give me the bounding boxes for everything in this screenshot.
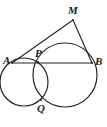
geometry-figure: A B M P Q (0, 0, 107, 127)
point-label-p: P (35, 48, 42, 59)
figure-canvas (0, 0, 107, 127)
segment-line-am (12, 20, 73, 63)
point-marker-p (37, 61, 39, 63)
point-label-a: A (3, 55, 10, 66)
point-label-q: Q (37, 103, 45, 114)
point-label-b: B (95, 56, 102, 67)
point-marker-q (40, 99, 42, 101)
point-marker-a (11, 62, 13, 64)
point-label-m: M (68, 5, 78, 16)
point-marker-m (72, 19, 74, 21)
segment-line-mb (73, 20, 92, 63)
point-marker-b (91, 62, 93, 64)
